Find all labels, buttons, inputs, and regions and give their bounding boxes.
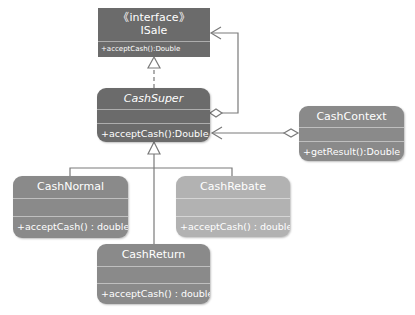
cashreturn-name: CashReturn bbox=[97, 244, 210, 262]
class-cashrebate[interactable]: CashRebate +acceptCash() : double bbox=[176, 176, 290, 237]
cashnormal-attributes bbox=[13, 199, 128, 216]
realization-arrowhead bbox=[148, 57, 160, 68]
cashrebate-operation: +acceptCash() : double bbox=[176, 217, 290, 232]
class-cashsuper[interactable]: CashSuper +acceptCash():Double bbox=[97, 88, 210, 142]
isale-operation: +acceptCash():Double bbox=[98, 42, 210, 53]
cashsuper-attributes bbox=[97, 110, 210, 123]
aggregation-diamond-cashcontext bbox=[284, 129, 298, 137]
generalization-arrowhead bbox=[148, 142, 160, 154]
generalization-branch bbox=[70, 168, 232, 176]
isale-name: ISale bbox=[98, 24, 210, 38]
cashrebate-attributes bbox=[176, 199, 290, 216]
cashnormal-name: CashNormal bbox=[13, 176, 128, 194]
cashreturn-attributes bbox=[97, 267, 210, 283]
cashcontext-operation: +getResult():Double bbox=[299, 142, 404, 157]
cashcontext-name: CashContext bbox=[299, 106, 404, 124]
isale-stereotype: 《interface》 bbox=[98, 8, 210, 24]
aggregation-line-isale bbox=[212, 33, 238, 113]
class-cashnormal[interactable]: CashNormal +acceptCash() : double bbox=[13, 176, 128, 238]
aggregation-diamond-cashsuper bbox=[210, 109, 222, 117]
cashrebate-name: CashRebate bbox=[176, 176, 290, 194]
cashsuper-name: CashSuper bbox=[97, 88, 210, 106]
class-isale[interactable]: 《interface》 ISale +acceptCash():Double bbox=[98, 8, 210, 57]
class-cashcontext[interactable]: CashContext +getResult():Double bbox=[299, 106, 404, 161]
cashsuper-operation: +acceptCash():Double bbox=[97, 124, 210, 139]
cashreturn-operation: +acceptCash() : double bbox=[97, 284, 210, 299]
cashnormal-operation: +acceptCash() : double bbox=[13, 217, 128, 232]
class-cashreturn[interactable]: CashReturn +acceptCash() : double bbox=[97, 244, 210, 304]
cashcontext-attributes bbox=[299, 128, 404, 141]
